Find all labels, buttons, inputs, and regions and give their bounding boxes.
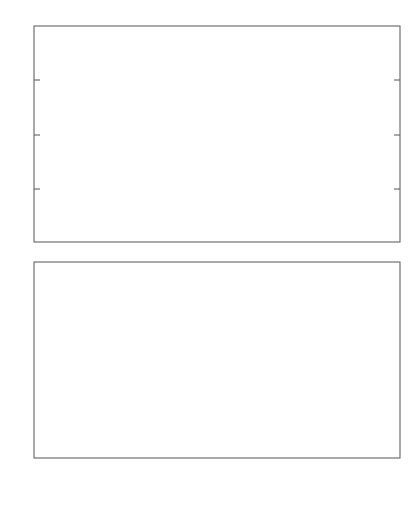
chart-canvas [0,0,411,513]
top-y-ticks [34,80,400,189]
bottom-chart-frame [34,262,400,458]
top-chart-frame [34,26,400,242]
